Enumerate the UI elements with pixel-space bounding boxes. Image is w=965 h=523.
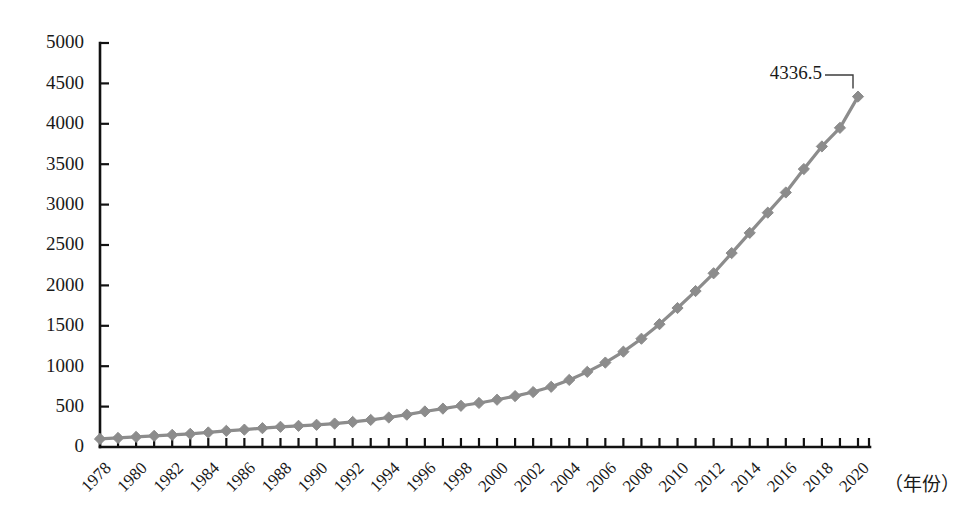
data-point-marker (383, 412, 394, 423)
x-tick-label: 1998 (438, 458, 475, 495)
data-point-marker (221, 425, 232, 436)
data-point-marker (257, 423, 268, 434)
x-tick-label: 1980 (113, 458, 150, 495)
data-point-marker (401, 409, 412, 420)
y-tick-label: 2500 (46, 233, 84, 254)
y-tick-label: 3000 (46, 193, 84, 214)
y-tick-label: 1500 (46, 314, 84, 335)
y-tick-label: 4500 (46, 72, 84, 93)
data-point-marker (419, 406, 430, 417)
data-point-marker (329, 418, 340, 429)
data-point-marker (528, 386, 539, 397)
x-tick-label: 2016 (763, 458, 800, 495)
x-tick-label: 1994 (366, 458, 404, 496)
data-point-marker (311, 419, 322, 430)
x-tick-label: 1986 (222, 458, 259, 495)
y-tick-label: 4000 (46, 112, 84, 133)
data-point-marker (473, 397, 484, 408)
annotation-leader-line (825, 75, 853, 89)
data-point-marker (275, 421, 286, 432)
x-tick-label: 1996 (402, 458, 439, 495)
x-axis: 1978198019821984198619881990199219941996… (77, 438, 872, 496)
y-tick-label: 5000 (46, 31, 84, 52)
y-axis: 0500100015002000250030003500400045005000 (46, 31, 109, 456)
x-tick-label: 1992 (330, 458, 367, 495)
annotation-value-label: 4336.5 (770, 62, 822, 83)
data-point-marker (293, 420, 304, 431)
x-tick-label: 2004 (547, 458, 585, 496)
x-axis-title: （年份） (884, 474, 960, 495)
data-series (94, 91, 863, 445)
y-tick-label: 0 (75, 435, 85, 456)
x-tick-label: 1984 (186, 458, 224, 496)
data-point-marker (203, 427, 214, 438)
x-tick-label: 2018 (799, 458, 836, 495)
chart-container: 0500100015002000250030003500400045005000… (0, 0, 965, 523)
y-tick-label: 1000 (46, 355, 84, 376)
x-tick-label: 1988 (258, 458, 295, 495)
data-point-marker (347, 416, 358, 427)
annotation-layer: 4336.5 (770, 62, 853, 88)
data-point-marker (546, 381, 557, 392)
data-point-marker (437, 403, 448, 414)
data-point-marker (365, 414, 376, 425)
x-tick-label: 1982 (150, 458, 187, 495)
growth-line-chart: 0500100015002000250030003500400045005000… (0, 0, 965, 523)
y-tick-label: 2000 (46, 274, 84, 295)
x-tick-label: 2020 (835, 458, 872, 495)
x-tick-label: 2008 (619, 458, 656, 495)
data-point-marker (185, 428, 196, 439)
data-point-marker (509, 390, 520, 401)
x-tick-label: 2012 (691, 458, 728, 495)
series-line (100, 97, 858, 439)
data-point-marker (167, 429, 178, 440)
x-tick-label: 2006 (583, 458, 620, 495)
y-tick-label: 3500 (46, 153, 84, 174)
data-point-marker (130, 431, 141, 442)
x-tick-label: 1978 (77, 458, 114, 495)
data-point-marker (455, 400, 466, 411)
data-point-marker (239, 424, 250, 435)
x-tick-label: 1990 (294, 458, 331, 495)
x-tick-label: 2000 (474, 458, 511, 495)
y-tick-label: 500 (56, 395, 85, 416)
data-point-marker (491, 394, 502, 405)
data-point-marker (112, 432, 123, 443)
data-point-marker (149, 430, 160, 441)
x-tick-label: 2010 (655, 458, 692, 495)
x-tick-label: 2014 (727, 458, 765, 496)
data-point-marker (582, 366, 593, 377)
data-point-marker (564, 374, 575, 385)
data-point-marker (94, 433, 105, 444)
x-tick-label: 2002 (510, 458, 547, 495)
